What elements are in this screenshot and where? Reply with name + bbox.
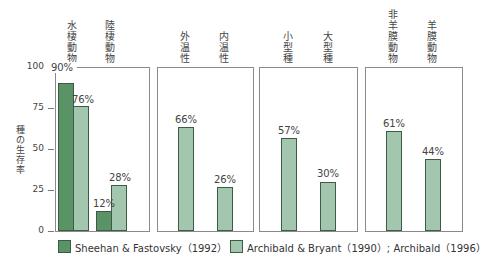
y-tick-100: 100: [22, 61, 44, 71]
bar-terrestrial-sheehan: [96, 211, 112, 231]
bar-small: [281, 138, 297, 231]
bar-aquatic-archibald: [73, 106, 89, 231]
y-tick-mark-25: [48, 190, 54, 191]
value-label-terrestrial-archibald: 28%: [100, 172, 140, 183]
category-label-large: 大型種: [322, 31, 334, 64]
value-label-endotherm: 26%: [205, 174, 245, 185]
y-tick-75: 75: [22, 102, 44, 112]
bar-nonamniote: [386, 131, 402, 231]
value-label-nonamniote: 61%: [374, 118, 414, 129]
value-label-large: 30%: [308, 168, 348, 179]
bar-endotherm: [217, 187, 233, 231]
panel-ectotherm-endotherm: [157, 67, 254, 232]
legend-label-archibald: Archibald & Bryant（1990）; Archibald（1996…: [247, 240, 484, 255]
y-tick-mark-0: [48, 231, 54, 232]
category-label-ectotherm: 外温性: [179, 31, 191, 64]
legend-swatch-sheehan: [58, 240, 71, 253]
category-label-small: 小型種: [282, 31, 294, 64]
panel-small-large: [259, 67, 358, 232]
category-label-amniote: 羊膜動物: [426, 20, 438, 64]
category-label-terrestrial: 陸棲動物: [104, 20, 116, 64]
value-label-terrestrial-sheehan: 12%: [84, 198, 124, 209]
category-label-nonamniote: 非羊膜動物: [387, 9, 399, 64]
bar-large: [320, 182, 336, 231]
category-label-aquatic: 水棲動物: [66, 20, 78, 64]
y-tick-mark-75: [48, 108, 54, 109]
category-label-endotherm: 内温性: [218, 31, 230, 64]
value-label-amniote: 44%: [413, 146, 453, 157]
value-label-ectotherm: 66%: [166, 114, 206, 125]
legend-label-sheehan: Sheehan & Fastovsky（1992）: [75, 240, 227, 255]
y-tick-mark-50: [48, 149, 54, 150]
y-tick-50: 50: [22, 143, 44, 153]
y-tick-0: 0: [22, 225, 44, 235]
legend-swatch-archibald: [230, 240, 243, 253]
value-label-aquatic-archibald: 76%: [63, 94, 103, 105]
value-label-small: 57%: [269, 125, 309, 136]
y-tick-25: 25: [22, 184, 44, 194]
bar-aquatic-sheehan: [58, 83, 74, 231]
bar-amniote: [425, 159, 441, 231]
bar-ectotherm: [178, 127, 194, 231]
value-label-aquatic-sheehan: 90%: [47, 62, 77, 73]
